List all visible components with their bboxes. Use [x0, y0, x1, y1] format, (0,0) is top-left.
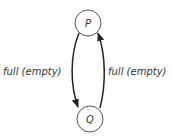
edge-q-to-p [98, 33, 104, 108]
node-p: P [75, 10, 101, 36]
edge-label-right: full (empty) [108, 66, 166, 77]
node-p-label: P [85, 18, 92, 29]
edge-p-to-q [72, 33, 79, 107]
node-q: Q [77, 106, 103, 132]
node-q-label: Q [86, 114, 94, 125]
edge-label-left: full (empty) [3, 66, 61, 77]
diagram-canvas: P Q full (empty) full (empty) [0, 0, 173, 139]
state-diagram: P Q full (empty) full (empty) [0, 0, 173, 139]
